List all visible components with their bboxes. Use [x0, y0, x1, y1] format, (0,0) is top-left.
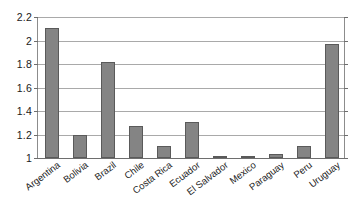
y-axis-tick-label: 2.2 [17, 12, 32, 23]
bar [101, 62, 115, 158]
axis-tick-mark [34, 158, 38, 159]
bar [129, 126, 143, 158]
bar [157, 146, 171, 158]
y-axis-tick-label: 1.4 [17, 106, 32, 117]
bar [213, 156, 227, 158]
bar [73, 135, 87, 159]
axis-tick-mark [344, 135, 348, 136]
plot-area [37, 17, 345, 158]
bar [241, 156, 255, 158]
bar [297, 146, 311, 158]
bar [185, 122, 199, 158]
x-axis-tick-label: Uruguay [307, 160, 341, 189]
bar [325, 44, 339, 158]
bar [45, 28, 59, 158]
y-axis-tick-label: 1.2 [17, 129, 32, 140]
axis-tick-mark [344, 111, 348, 112]
bar-chart: 2.2 2 1.8 1.6 1.4 1.2 1 Argentina Bolivi… [0, 0, 363, 217]
axis-tick-mark [344, 158, 348, 159]
axis-tick-mark [344, 88, 348, 89]
bars-group [38, 17, 344, 158]
x-axis-tick-label: Brazil [93, 160, 118, 182]
y-axis-tick-label: 2 [26, 35, 32, 46]
x-axis-tick-label: Bolivia [62, 160, 90, 184]
y-axis-tick-label: 1.6 [17, 82, 32, 93]
y-axis-tick-label: 1.8 [17, 59, 32, 70]
axis-tick-mark [344, 41, 348, 42]
x-axis-tick-labels: Argentina Bolivia Brazil Chile Costa Ric… [0, 160, 363, 217]
axis-tick-mark [344, 64, 348, 65]
bar [269, 154, 283, 158]
axis-tick-mark [344, 17, 348, 18]
gridline [38, 158, 344, 159]
x-axis-tick-label: Argentina [24, 160, 62, 192]
